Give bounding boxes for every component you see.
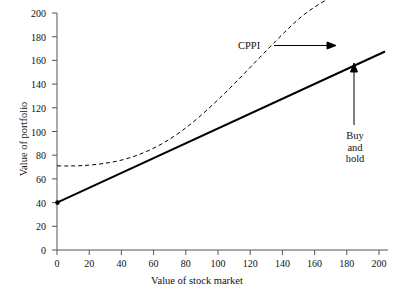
y-axis-title: Value of portfolio [18,102,29,177]
buy-and-hold-annotation-arrow [351,63,358,125]
x-tick-label-200: 200 [366,259,392,269]
buy-and-hold-start-marker [55,200,60,205]
buy-and-hold-label-line1: Buy [334,130,376,142]
x-tick-label-40: 40 [108,259,134,269]
x-tick-label-140: 140 [269,259,295,269]
x-tick-label-120: 120 [237,259,263,269]
x-tick-label-20: 20 [76,259,102,269]
x-tick-label-0: 0 [44,259,70,269]
x-tick-label-60: 60 [141,259,167,269]
y-tick-label-40: 40 [20,199,46,209]
buy-and-hold-label-line2: and [334,142,376,154]
x-tick-label-160: 160 [302,259,328,269]
x-tick-label-100: 100 [205,259,231,269]
x-axis-title: Value of stock market [0,275,394,286]
series-buy-and-hold-line [57,52,385,203]
y-axis-ticks [52,13,57,250]
y-tick-label-20: 20 [20,222,46,232]
series-cppi-curve [57,0,334,166]
y-tick-label-0: 0 [20,246,46,256]
y-tick-label-200: 200 [20,9,46,19]
y-tick-label-180: 180 [20,33,46,43]
x-tick-label-80: 80 [173,259,199,269]
x-tick-label-180: 180 [334,259,360,269]
buy-and-hold-label-line3: hold [334,153,376,165]
cppi-annotation-label: CPPI [238,40,260,52]
buy-and-hold-annotation-label: Buy and hold [334,130,376,165]
y-tick-label-160: 160 [20,56,46,66]
chart-figure: 200 180 160 140 120 100 80 60 40 20 0 0 … [0,0,394,293]
cppi-annotation-arrow [274,42,336,49]
x-axis-ticks [57,250,379,255]
y-axis-title-wrapper: Value of portfolio [13,79,31,199]
